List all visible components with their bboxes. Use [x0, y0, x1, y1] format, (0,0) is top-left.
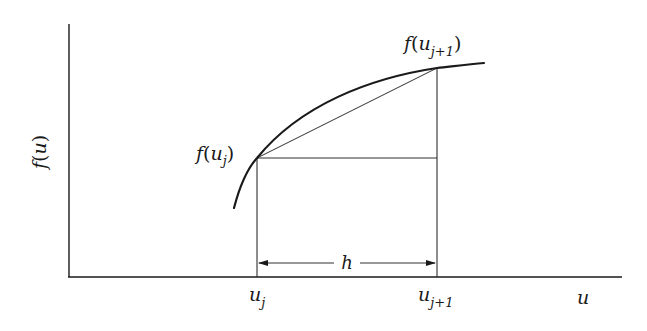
- point-label-left: f(uj): [194, 142, 234, 168]
- svg-text:f(u): f(u): [28, 135, 50, 171]
- x-tick-label-uj: uj: [249, 283, 265, 310]
- secant-diagram: h f(u) u f(uj) f(uj+1) uj uj+1: [0, 0, 647, 331]
- x-tick-label-uj1: uj+1: [418, 283, 453, 310]
- h-label: h: [341, 252, 353, 273]
- point-label-right: f(uj+1): [402, 32, 461, 59]
- y-axis-label: f(u): [28, 135, 50, 171]
- function-curve: [234, 63, 484, 208]
- x-axis-label: u: [577, 286, 589, 308]
- secant-line: [257, 68, 437, 158]
